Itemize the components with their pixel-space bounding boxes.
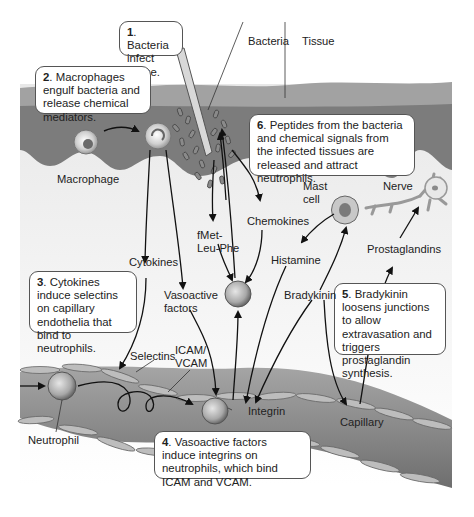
label-macrophage: Macrophage [57,173,119,186]
label-fmet-leu-phe: fMet- Leu-Phe [197,229,239,255]
callout-step-3: 3. Cytokines induce selectins on capilla… [29,271,137,333]
label-tissue: Tissue [302,35,335,48]
label-vasoactive-factors: Vasoactive factors [164,289,218,315]
extravasated-neutrophil [225,281,251,307]
label-bacteria: Bacteria [248,35,289,48]
adhering-neutrophil [202,398,228,424]
label-cytokines: Cytokines [129,256,178,269]
callout-step-1: 1. Bacteria infect tissue. [119,21,183,56]
active-macrophage-cell [145,123,171,149]
label-neutrophil: Neutrophil [28,434,79,447]
label-icam-vcam: ICAM/ VCAM [175,344,207,370]
label-selectins: Selectins [130,350,175,363]
macrophage-cell [74,130,98,154]
step-text: . Peptides from the bacteria and chemica… [257,119,403,184]
callout-step-2: 2. Macrophages engulf bacteria and relea… [35,66,151,114]
label-bradykinin: Bradykinin [284,289,336,302]
callout-step-6: 6. Peptides from the bacteria and chemic… [249,114,415,176]
label-nerve: Nerve [383,180,413,193]
label-histamine: Histamine [271,254,321,267]
label-mast-cell: Mast cell [303,180,327,206]
inflammation-diagram: 1. Bacteria infect tissue. 2. Macrophage… [0,0,474,517]
mast-cell [332,196,359,224]
callout-step-4: 4. Vasoactive factors induce integrins o… [154,431,311,479]
label-capillary: Capillary [340,416,384,429]
label-chemokines: Chemokines [247,215,309,228]
label-prostaglandins: Prostaglandins [367,243,441,256]
callout-step-5: 5. Bradykinin loosens junctions to allow… [334,283,446,355]
neutrophil-in-capillary [48,372,76,400]
label-integrin: Integrin [248,405,285,418]
